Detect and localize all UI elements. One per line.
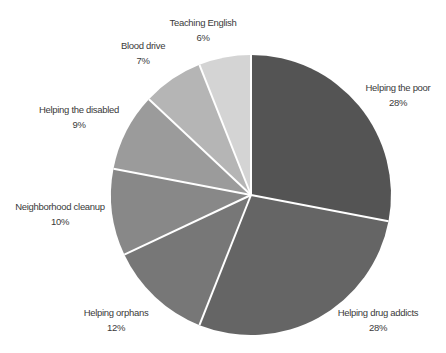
- label-blood-drive: Blood drive 7%: [121, 38, 165, 68]
- slice-label-value: 6%: [169, 30, 236, 45]
- label-teaching-english: Teaching English 6%: [169, 15, 236, 45]
- slice-label-value: 28%: [338, 320, 419, 335]
- pie-slices: [111, 55, 391, 335]
- slice-label-value: 28%: [366, 95, 431, 110]
- label-helping-drug-addicts: Helping drug addicts 28%: [338, 305, 419, 335]
- label-helping-the-disabled: Helping the disabled 9%: [39, 102, 119, 132]
- pie-chart: [0, 0, 446, 353]
- slice-label-value: 12%: [84, 320, 149, 335]
- slice-label-name: Helping drug addicts: [338, 305, 419, 320]
- slice-label-name: Blood drive: [121, 38, 165, 53]
- slice-label-name: Teaching English: [169, 15, 236, 30]
- slice-label-name: Helping orphans: [84, 305, 149, 320]
- label-helping-orphans: Helping orphans 12%: [84, 305, 149, 335]
- label-neighborhood-cleanup: Neighborhood cleanup 10%: [15, 199, 105, 229]
- slice-label-name: Helping the poor: [366, 80, 431, 95]
- slice-label-value: 7%: [121, 53, 165, 68]
- slice-label-value: 9%: [39, 117, 119, 132]
- slice-label-name: Helping the disabled: [39, 102, 119, 117]
- slice-label-name: Neighborhood cleanup: [15, 199, 105, 214]
- slice-label-value: 10%: [15, 214, 105, 229]
- label-helping-the-poor: Helping the poor 28%: [366, 80, 431, 110]
